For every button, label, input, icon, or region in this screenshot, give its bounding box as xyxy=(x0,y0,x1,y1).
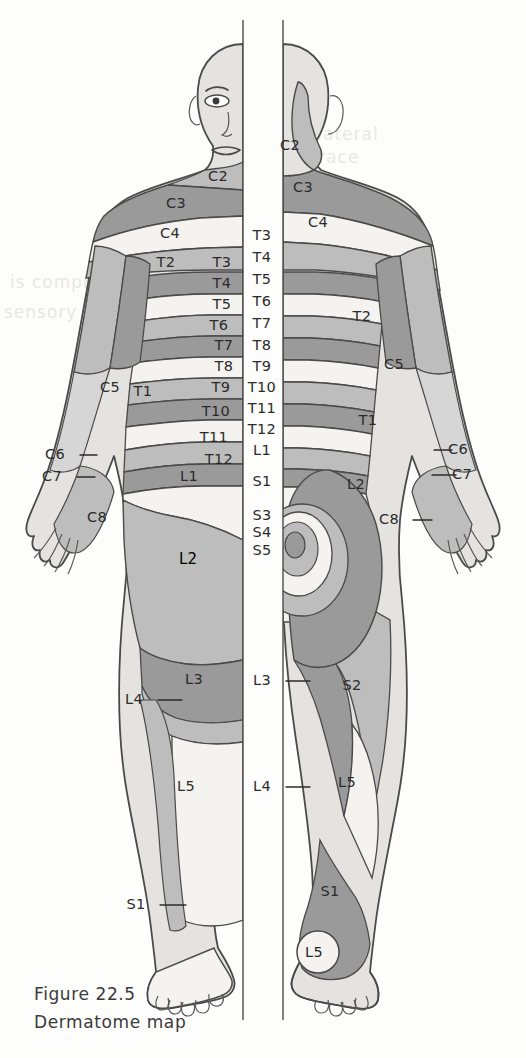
dermatome-label-anterior-T7-8: T7 xyxy=(214,337,234,353)
dermatome-label-C7-leader-1: C7 xyxy=(42,468,62,484)
dermatome-label-posterior-L5-8: L5 xyxy=(338,774,356,790)
dermatome-label-anterior-L2-15: L2 xyxy=(179,550,197,568)
dermatome-label-anterior-T2-3: T2 xyxy=(156,254,176,270)
dermatome-label-anterior-T1-19: T1 xyxy=(133,383,153,399)
dermatome-label-anterior-T5-6: T5 xyxy=(212,296,232,312)
dermatome-label-anterior-C8-20: C8 xyxy=(87,509,107,525)
dermatome-map-figure: the lateral will trace is compressed sen… xyxy=(0,0,526,1058)
dermatome-label-midline-T3: T3 xyxy=(252,227,272,243)
dermatome-label-L4-leader-8: L4 xyxy=(253,778,271,794)
dermatome-label-posterior-C2-0: C2 xyxy=(280,137,300,153)
dermatome-label-anterior-T6-7: T6 xyxy=(209,317,229,333)
dermatome-label-anterior-C2-0: C2 xyxy=(208,168,228,184)
dermatome-label-posterior-L5-10: L5 xyxy=(305,944,323,960)
band-posterior-S5-ring xyxy=(285,532,305,558)
dermatome-label-posterior-C5-4: C5 xyxy=(384,356,404,372)
dermatome-label-anterior-L5-17: L5 xyxy=(177,778,195,794)
dermatome-label-anterior-C4-2: C4 xyxy=(160,225,180,241)
dermatome-label-midline-T4: T4 xyxy=(252,249,272,265)
dermatome-illustration: the lateral will trace is compressed sen… xyxy=(0,0,526,1058)
dermatome-label-C6-leader-2: C6 xyxy=(448,441,468,457)
dermatome-label-anterior-T3-4: T3 xyxy=(212,254,232,270)
dermatome-label-anterior-T8-9: T8 xyxy=(214,358,234,374)
dermatome-label-posterior-S2-7: S2 xyxy=(342,677,361,693)
dermatome-label-midline-T11: T11 xyxy=(247,400,277,416)
anterior-body-half xyxy=(26,44,243,1016)
dermatome-label-posterior-C4-2: C4 xyxy=(308,214,328,230)
dermatome-label-anterior-T12-13: T12 xyxy=(204,451,234,467)
dermatome-label-midline-S5: S5 xyxy=(252,542,271,558)
figure-number: Figure 22.5 xyxy=(34,984,136,1004)
dermatome-label-S1-leader-6: S1 xyxy=(126,896,145,912)
figure-caption: Dermatome map xyxy=(34,1012,186,1032)
dermatome-label-midline-S1: S1 xyxy=(252,473,271,489)
dermatome-label-midline-S3: S3 xyxy=(252,507,271,523)
dermatome-label-anterior-T11-12: T11 xyxy=(199,429,229,445)
dermatome-label-L4-leader-5: L4 xyxy=(125,691,143,707)
dermatome-label-anterior-L3-16: L3 xyxy=(185,671,203,687)
dermatome-label-C7-leader-3: C7 xyxy=(452,466,472,482)
dermatome-label-C6-leader-0: C6 xyxy=(45,446,65,462)
dermatome-label-midline-T10: T10 xyxy=(247,379,277,395)
dermatome-label-midline-T8: T8 xyxy=(252,337,272,353)
dermatome-label-midline-T12: T12 xyxy=(247,421,277,437)
dermatome-label-anterior-T4-5: T4 xyxy=(212,275,232,291)
dermatome-label-anterior-C5-18: C5 xyxy=(100,379,120,395)
dermatome-label-midline-T5: T5 xyxy=(252,271,272,287)
dermatome-label-posterior-T2-3: T2 xyxy=(352,308,372,324)
dermatome-label-anterior-L1-14: L1 xyxy=(180,468,198,484)
dermatome-label-anterior-T9-10: T9 xyxy=(211,379,231,395)
dermatome-label-anterior-T10-11: T10 xyxy=(201,403,231,419)
dermatome-label-posterior-T1-5: T1 xyxy=(358,412,378,428)
dermatome-label-midline-T6: T6 xyxy=(252,293,272,309)
dermatome-label-anterior-C3-1: C3 xyxy=(166,195,186,211)
dermatome-label-midline-L1: L1 xyxy=(253,442,271,458)
dermatome-label-posterior-C3-1: C3 xyxy=(293,179,313,195)
dermatome-label-C8-leader-4: C8 xyxy=(379,511,399,527)
dermatome-label-L3-leader-7: L3 xyxy=(253,672,271,688)
dermatome-label-midline-T9: T9 xyxy=(252,358,272,374)
dermatome-label-midline-T7: T7 xyxy=(252,315,272,331)
dermatome-label-posterior-L2-6: L2 xyxy=(347,476,365,492)
dermatome-label-midline-S4: S4 xyxy=(252,524,271,540)
dermatome-label-posterior-S1-9: S1 xyxy=(320,883,339,899)
